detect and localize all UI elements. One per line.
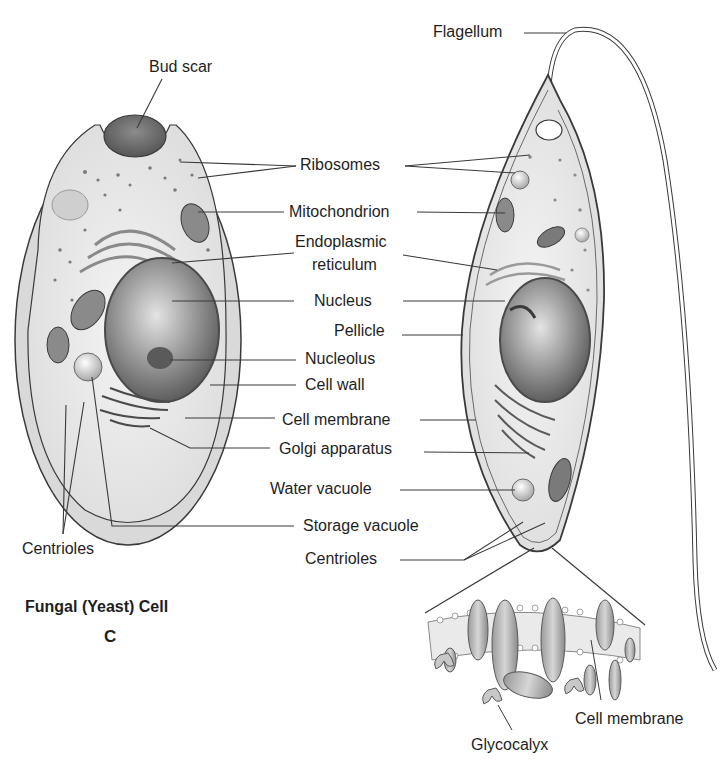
label-cell-membrane: Cell membrane [282,411,390,429]
label-centrioles-left: Centrioles [22,540,94,558]
label-cell-wall: Cell wall [305,376,365,394]
label-glycocalyx: Glycocalyx [471,736,548,754]
yeast-cell [15,115,241,545]
label-mitochondrion: Mitochondrion [289,203,390,221]
label-flagellum: Flagellum [433,23,502,41]
label-er-line2: reticulum [312,256,377,274]
label-water-vacuole: Water vacuole [270,480,372,498]
label-bud-scar: Bud scar [149,58,212,76]
label-nucleus: Nucleus [314,292,372,310]
label-ribosomes: Ribosomes [300,156,380,174]
label-golgi-apparatus: Golgi apparatus [279,440,392,458]
label-cell-membrane-inset: Cell membrane [575,710,683,728]
label-storage-vacuole: Storage vacuole [303,517,419,535]
yeast-storage-vacuole [74,353,102,381]
label-nucleolus: Nucleolus [305,350,375,368]
figure-title: Fungal (Yeast) Cell [25,598,168,616]
yeast-nucleus [105,258,219,402]
label-centrioles-right: Centrioles [305,550,377,568]
membrane-inset [425,548,645,730]
euglena-cell [461,29,715,670]
water-vacuole [512,479,534,501]
label-er-line1: Endoplasmic [295,233,387,251]
label-pellicle: Pellicle [334,322,385,340]
panel-letter: C [104,627,116,647]
yeast-nucleolus [147,347,173,369]
euglena-nucleus [500,278,590,402]
bud-scar [104,115,166,157]
